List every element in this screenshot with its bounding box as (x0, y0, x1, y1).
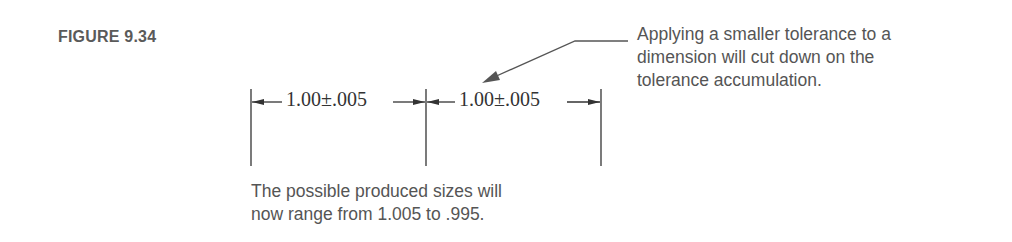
leader-arrowhead-icon (482, 71, 500, 83)
caption-line-1: The possible produced sizes will (251, 180, 502, 203)
callout-line-3: tolerance accumulation. (637, 69, 891, 92)
caption-note: The possible produced sizes will now ran… (251, 180, 502, 226)
dimension-text-2: 1.00±.005 (457, 88, 542, 111)
caption-line-2: now range from 1.005 to .995. (251, 203, 502, 226)
dimension-text-1: 1.00±.005 (284, 88, 369, 111)
leader-line (492, 41, 628, 78)
callout-line-1: Applying a smaller tolerance to a (637, 23, 891, 46)
callout-note: Applying a smaller tolerance to a dimens… (637, 23, 891, 92)
callout-line-2: dimension will cut down on the (637, 46, 891, 69)
